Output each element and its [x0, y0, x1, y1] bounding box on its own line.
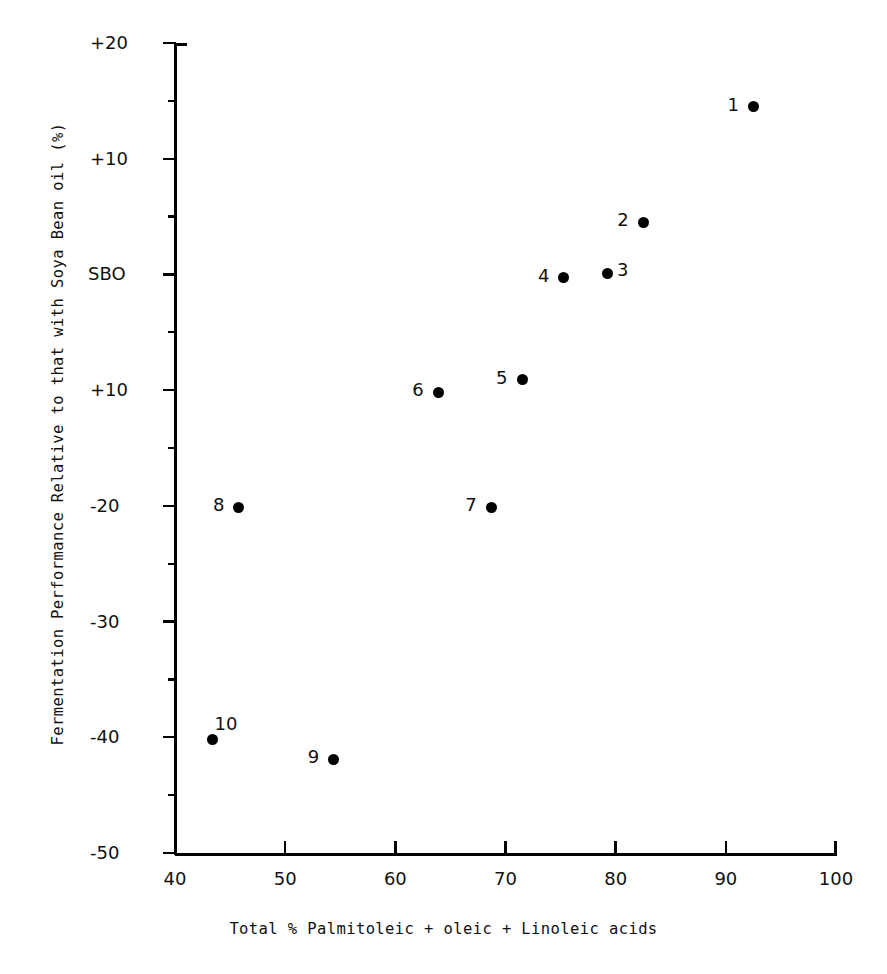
- x-axis-tick-label: 50: [245, 870, 325, 888]
- y-axis-tick: [163, 736, 176, 738]
- x-axis-tick: [284, 841, 286, 854]
- data-point: [207, 734, 218, 745]
- y-axis-tick-label: -40: [90, 728, 150, 746]
- data-point-label: 5: [496, 369, 507, 387]
- data-point: [558, 272, 569, 283]
- data-point-label: 6: [412, 381, 423, 399]
- y-axis-tick-label: +10: [90, 150, 150, 168]
- y-axis-tick-label: -50: [90, 844, 150, 862]
- data-point-label: 7: [465, 496, 476, 514]
- data-point: [328, 754, 339, 765]
- x-axis-tick-label: 100: [796, 870, 876, 888]
- x-axis-tick: [394, 841, 396, 854]
- y-axis-tick: [163, 42, 176, 44]
- x-axis-tick: [174, 841, 176, 854]
- data-point: [517, 374, 528, 385]
- y-axis-minor-tick: [168, 100, 176, 102]
- x-axis-tick-label: 60: [355, 870, 435, 888]
- y-axis-tick-label: SBO: [88, 265, 148, 283]
- y-axis-tick-label: -20: [90, 497, 150, 515]
- y-axis-minor-tick: [168, 678, 176, 680]
- scatter-chart-figure: Fermentation Performance Relative to tha…: [0, 0, 887, 974]
- data-point-label: 8: [213, 496, 224, 514]
- y-axis-tick: [163, 158, 176, 160]
- x-axis-tick: [504, 841, 506, 854]
- y-axis-tick: [163, 620, 176, 622]
- data-point-label: 2: [617, 211, 628, 229]
- x-axis-tick-label: 80: [576, 870, 656, 888]
- x-axis-tick-label: 70: [466, 870, 546, 888]
- x-axis-tick-label: 90: [686, 870, 766, 888]
- x-axis-title: Total % Palmitoleic + oleic + Linoleic a…: [0, 920, 887, 938]
- data-point: [748, 101, 759, 112]
- data-point: [486, 502, 497, 513]
- plot-area: +20+10SBO+10-20-30-40-504050607080901001…: [0, 0, 887, 974]
- y-axis-tick-label: +20: [90, 34, 150, 52]
- data-point-label: 1: [727, 96, 738, 114]
- y-axis-tick-label: +10: [90, 381, 150, 399]
- data-point: [233, 502, 244, 513]
- x-axis-tick: [725, 841, 727, 854]
- x-axis-tick: [614, 841, 616, 854]
- y-axis-tick: [163, 505, 176, 507]
- y-axis-minor-tick: [168, 447, 176, 449]
- x-axis-tick-label: 40: [135, 870, 215, 888]
- y-axis-minor-tick: [168, 331, 176, 333]
- data-point: [602, 268, 613, 279]
- y-axis-tick: [163, 389, 176, 391]
- y-axis-minor-tick: [168, 794, 176, 796]
- data-point-label: 4: [538, 267, 549, 285]
- y-axis-minor-tick: [168, 215, 176, 217]
- data-point: [433, 387, 444, 398]
- y-axis-minor-tick: [168, 563, 176, 565]
- data-point-label: 3: [617, 261, 628, 279]
- data-point-label: 9: [308, 748, 319, 766]
- data-point: [638, 217, 649, 228]
- y-axis-tick: [163, 273, 176, 275]
- y-axis-tick-label: -30: [90, 613, 150, 631]
- data-point-label: 10: [214, 715, 237, 733]
- x-axis-right-cap: [834, 841, 837, 855]
